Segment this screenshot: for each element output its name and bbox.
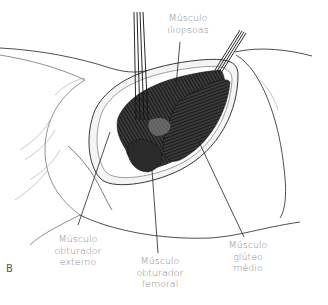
label-iliopsoas: Músculo iliopsoas <box>158 12 218 35</box>
label-obturador-externo: Músculo obturador externo <box>46 233 110 268</box>
label-obturador-femoral: Músculo obturador femoral <box>128 255 192 290</box>
panel-letter: B <box>6 263 13 274</box>
label-gluteo-medio: Músculo glúteo médio <box>218 239 278 274</box>
